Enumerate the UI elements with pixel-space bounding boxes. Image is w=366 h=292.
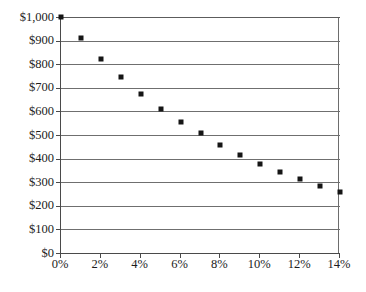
x-axis-tick-label: 2% [92,258,109,271]
data-point [258,162,263,167]
y-axis-tick-label: $200 [29,199,54,212]
y-axis-labels: $0$100$200$300$400$500$600$700$800$900$1… [0,0,54,292]
data-point [318,183,323,188]
y-axis-tick-label: $900 [29,34,54,47]
scatter-chart: $0$100$200$300$400$500$600$700$800$900$1… [0,0,366,292]
x-axis-tick-label: 14% [328,258,351,271]
y-axis-tick-label: $500 [29,129,54,142]
x-axis-tick-label: 0% [52,258,69,271]
y-axis-tick [56,41,61,42]
data-point [298,176,303,181]
x-axis-labels: 0%2%4%6%8%10%12%14% [0,258,366,278]
x-axis-tick-label: 4% [131,258,148,271]
y-axis-tick [56,182,61,183]
y-axis-tick-label: $400 [29,152,54,165]
y-axis-tick-label: $1,000 [20,11,54,24]
y-axis-tick [56,111,61,112]
data-point [198,131,203,136]
y-axis-tick [56,88,61,89]
y-axis-tick [56,229,61,230]
gridline [61,64,340,65]
gridline [61,88,340,89]
x-axis-tick-label: 6% [171,258,188,271]
y-axis-tick-label: $800 [29,58,54,71]
gridline [61,206,340,207]
data-point [78,36,83,41]
y-axis-tick-label: $700 [29,81,54,94]
y-axis-tick-label: $600 [29,105,54,118]
data-point [218,142,223,147]
y-axis-tick [56,135,61,136]
data-point [59,15,64,20]
gridline [61,41,340,42]
y-axis-tick-label: $300 [29,176,54,189]
data-point [138,91,143,96]
y-axis-tick-label: $100 [29,223,54,236]
data-point [178,120,183,125]
x-axis-tick-label: 12% [288,258,311,271]
x-axis-tick-label: 10% [248,258,271,271]
gridline [61,182,340,183]
plot-area [60,17,339,253]
y-axis-tick [56,64,61,65]
data-point [238,152,243,157]
y-axis-tick [56,159,61,160]
data-point [278,169,283,174]
data-point [158,106,163,111]
data-point [338,190,343,195]
y-axis-tick [56,206,61,207]
gridline [61,159,340,160]
gridline [61,111,340,112]
gridline [61,229,340,230]
data-point [98,57,103,62]
data-point [118,75,123,80]
gridline [61,17,340,18]
x-axis-tick-label: 8% [211,258,228,271]
